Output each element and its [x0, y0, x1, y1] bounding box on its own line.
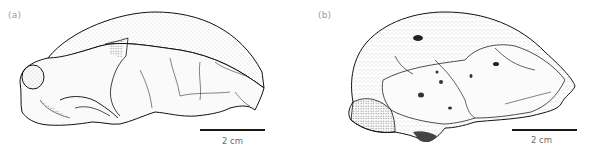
scale-bar-label-b: 2 cm — [531, 135, 552, 145]
specimen-illustration-a — [0, 0, 295, 158]
scale-bar-b — [512, 129, 577, 131]
scale-bar-a — [200, 129, 265, 131]
scale-bar-label-a: 2 cm — [222, 136, 243, 146]
